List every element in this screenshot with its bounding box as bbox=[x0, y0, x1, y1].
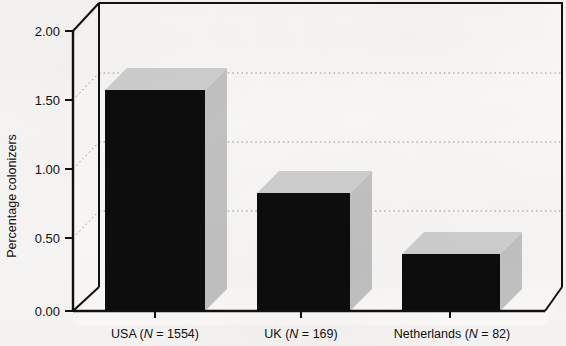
bar-usa[interactable] bbox=[105, 68, 227, 311]
y-tick-label-0-00: 0.00 bbox=[35, 304, 60, 319]
x-label-netherlands-country: Netherlands bbox=[394, 327, 461, 341]
x-label-usa: USA (N = 1554) bbox=[111, 327, 199, 341]
x-label-netherlands-equals: = bbox=[478, 327, 492, 341]
x-label-uk-country: UK bbox=[264, 327, 282, 341]
bar-uk-front bbox=[257, 193, 350, 311]
bar-usa-side bbox=[205, 68, 227, 311]
percentage-colonizers-bar-chart: 2.00 1.50 1.00 0.50 0.00 Percentage colo… bbox=[0, 0, 566, 346]
bar-netherlands-front bbox=[402, 254, 500, 311]
y-tick-label-1-50: 1.50 bbox=[35, 93, 60, 108]
y-tick-labels: 2.00 1.50 1.00 0.50 0.00 bbox=[35, 24, 60, 319]
x-label-netherlands-n-value: 82 bbox=[492, 327, 506, 341]
bar-usa-front bbox=[105, 90, 205, 311]
x-category-labels: USA (N = 1554) UK (N = 169) Netherlands … bbox=[111, 327, 510, 341]
y-axis-title: Percentage colonizers bbox=[5, 134, 19, 258]
bar-uk[interactable] bbox=[257, 171, 372, 311]
y-tick-label-0-50: 0.50 bbox=[35, 231, 60, 246]
y-axis-title-group: Percentage colonizers bbox=[5, 134, 19, 258]
plot-left-wall bbox=[73, 3, 99, 325]
x-label-uk-equals: = bbox=[298, 327, 312, 341]
y-tick-label-1-00: 1.00 bbox=[35, 162, 60, 177]
x-label-usa-n-value: 1554 bbox=[167, 327, 195, 341]
x-label-uk-n-value: 169 bbox=[313, 327, 334, 341]
bar-uk-side bbox=[350, 171, 372, 311]
y-tick-label-2-00: 2.00 bbox=[35, 24, 60, 39]
x-label-netherlands-close-paren: ) bbox=[506, 327, 510, 341]
x-label-usa-close-paren: ) bbox=[195, 327, 199, 341]
x-label-usa-equals: = bbox=[153, 327, 167, 341]
x-label-netherlands: Netherlands (N = 82) bbox=[394, 327, 510, 341]
x-label-usa-country: USA bbox=[111, 327, 137, 341]
x-label-uk-close-paren: ) bbox=[334, 327, 338, 341]
chart-page: 2.00 1.50 1.00 0.50 0.00 Percentage colo… bbox=[0, 0, 566, 346]
x-label-uk: UK (N = 169) bbox=[264, 327, 337, 341]
bar-netherlands[interactable] bbox=[402, 232, 522, 311]
